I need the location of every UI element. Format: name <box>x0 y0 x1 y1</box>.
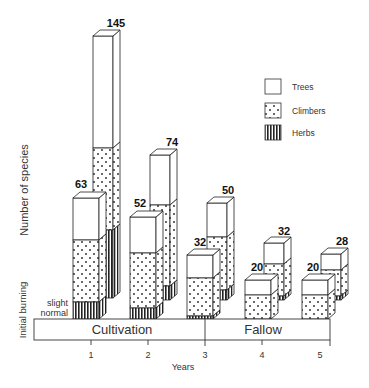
x-tick-label: 2 <box>145 350 150 360</box>
chart: Number of species Initial burning slight… <box>0 0 369 388</box>
group-label-slight: slight <box>47 298 69 308</box>
legend-swatch-blank-icon <box>265 79 281 94</box>
legend-item-trees: Trees <box>265 79 313 94</box>
x-axis: 1 2 3 4 5 Years <box>88 340 330 372</box>
group-axis-label: Initial burning <box>17 282 28 339</box>
x-tick-label: 1 <box>88 350 93 360</box>
group-label-normal: normal <box>40 308 68 318</box>
phase-fallow-label: Fallow <box>244 322 282 337</box>
legend-label: Climbers <box>292 106 326 116</box>
legend-item-climbers: Climbers <box>265 103 326 118</box>
bar-normal-year-3 <box>187 249 220 319</box>
x-axis-label: Years <box>172 362 195 372</box>
value-label: 50 <box>222 184 234 196</box>
legend-swatch-dots-icon <box>265 103 281 118</box>
value-label: 145 <box>107 17 125 29</box>
legend-swatch-stripes-icon <box>265 125 281 140</box>
legend-label: Herbs <box>292 128 315 138</box>
bar-normal-year-4 <box>245 274 278 319</box>
x-tick-label: 5 <box>317 350 322 360</box>
value-label: 63 <box>75 178 87 190</box>
legend-item-herbs: Herbs <box>265 125 315 140</box>
bar-normal-year-5 <box>302 274 335 319</box>
x-tick-label: 4 <box>259 350 264 360</box>
bar-normal-year-1 <box>73 192 106 319</box>
legend-label: Trees <box>292 82 313 92</box>
phase-cultivation-label: Cultivation <box>92 322 153 337</box>
value-label: 20 <box>251 261 263 273</box>
value-label: 52 <box>134 197 146 209</box>
value-label: 32 <box>278 225 290 237</box>
value-label: 32 <box>194 236 206 248</box>
phase-platform: Cultivation Fallow <box>34 319 330 346</box>
legend: Trees Climbers Herbs <box>265 79 326 140</box>
bar-normal-year-2 <box>130 211 163 319</box>
value-label: 28 <box>336 235 348 247</box>
x-tick-label: 3 <box>202 350 207 360</box>
y-axis-label: Number of species <box>18 144 30 236</box>
value-label: 74 <box>166 136 179 148</box>
value-label: 20 <box>307 261 319 273</box>
